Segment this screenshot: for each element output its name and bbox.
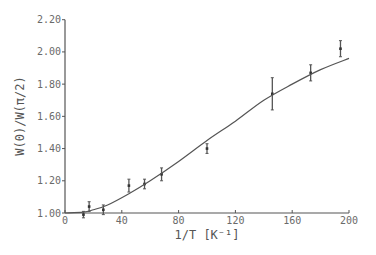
- point-marker: [128, 184, 131, 187]
- point-marker: [82, 213, 85, 216]
- point-marker: [206, 147, 209, 150]
- axes: [65, 20, 349, 213]
- point-marker: [102, 208, 105, 211]
- data-point: [88, 202, 91, 212]
- data-point: [309, 65, 312, 81]
- y-tick-label: 1.20: [37, 175, 61, 186]
- y-axis-title: W(0)/W(π/2): [13, 76, 27, 155]
- y-tick-label: 1.80: [37, 79, 61, 90]
- y-axis-ticks: 1.001.201.401.601.802.002.20: [37, 14, 65, 218]
- fit-curve: [65, 58, 349, 213]
- data-point: [206, 144, 209, 154]
- y-tick-label: 1.60: [37, 111, 61, 122]
- chart: 04080120160200 1.001.201.401.601.802.002…: [0, 0, 376, 255]
- x-tick-label: 80: [173, 215, 185, 226]
- x-tick-label: 120: [226, 215, 244, 226]
- y-tick-label: 1.40: [37, 143, 61, 154]
- y-tick-label: 2.20: [37, 14, 61, 25]
- x-tick-label: 200: [340, 215, 358, 226]
- x-tick-label: 160: [283, 215, 301, 226]
- plot-area: [65, 41, 349, 218]
- x-tick-label: 0: [62, 215, 68, 226]
- data-point: [127, 179, 130, 192]
- point-marker: [88, 205, 91, 208]
- x-axis-title: 1/T [K⁻¹]: [174, 228, 239, 242]
- point-marker: [339, 47, 342, 50]
- y-tick-label: 1.00: [37, 208, 61, 219]
- y-tick-label: 2.00: [37, 46, 61, 57]
- x-tick-label: 40: [116, 215, 128, 226]
- data-point: [339, 41, 342, 57]
